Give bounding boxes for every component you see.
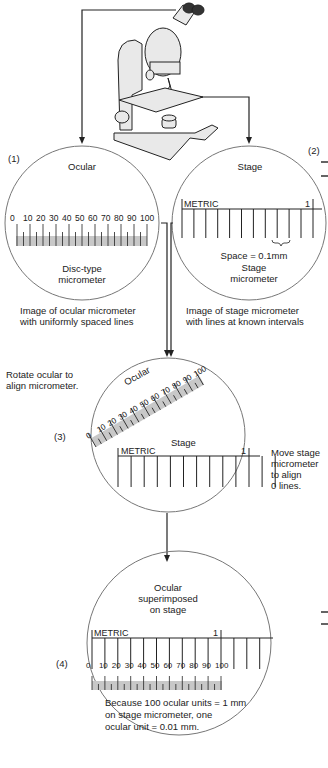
scale-label: 90 bbox=[127, 213, 136, 224]
scale-label: 10 bbox=[23, 213, 32, 224]
scale-label: 80 bbox=[189, 660, 198, 671]
scale-label: 10 bbox=[99, 660, 108, 671]
scale-label: 50 bbox=[75, 213, 84, 224]
panel-4-title-2: superimposed bbox=[128, 593, 208, 604]
panel-4-end-mark: 1 bbox=[213, 628, 218, 639]
scale-label: 20 bbox=[112, 660, 121, 671]
scale-label: 60 bbox=[163, 660, 172, 671]
stage-end-mark: 1 bbox=[305, 199, 310, 210]
panel-2-caption-2: with lines at known intervals bbox=[186, 316, 304, 327]
scale-label: 30 bbox=[125, 660, 134, 671]
move-note-4: 0 lines. bbox=[271, 480, 301, 491]
scale-label: 0 bbox=[10, 213, 15, 224]
space-note: Space = 0.1mm bbox=[214, 250, 294, 261]
panel-4-title-1: Ocular bbox=[128, 582, 208, 593]
panel-4-metric-label: METRIC bbox=[94, 628, 129, 639]
panel-2-subtitle-2: micrometer bbox=[214, 273, 294, 284]
conclusion-3: ocular unit = 0.01 mm. bbox=[105, 721, 199, 732]
panel-4-number: (4) bbox=[56, 658, 68, 669]
microscope-icon bbox=[114, 3, 218, 160]
move-note-3: to align bbox=[271, 469, 302, 480]
conclusion-1: Because 100 ocular units = 1 mm bbox=[105, 697, 246, 708]
move-note-2: micrometer bbox=[271, 458, 319, 469]
panel-1-number: (1) bbox=[8, 153, 20, 164]
panel-2-caption-1: Image of stage micrometer bbox=[186, 305, 299, 316]
panel-1-subtitle-1: Disc-type bbox=[32, 263, 132, 274]
scale-label: 70 bbox=[101, 213, 110, 224]
panel-4-title-3: on stage bbox=[128, 604, 208, 615]
scale-label: 40 bbox=[62, 213, 71, 224]
stage-metric-label: METRIC bbox=[184, 199, 219, 210]
conclusion-2: on stage micrometer, one bbox=[105, 709, 212, 720]
scale-label: 0 bbox=[86, 660, 90, 671]
panel-1-subtitle-2: micrometer bbox=[32, 274, 132, 285]
scale-label: 90 bbox=[202, 660, 211, 671]
panel-1-caption-1: Image of ocular micrometer bbox=[20, 305, 136, 316]
panel-2-title: Stage bbox=[220, 161, 280, 172]
panel-1-title: Ocular bbox=[52, 161, 112, 172]
superimposed-scale-labels: 0102030405060708090100 bbox=[86, 660, 226, 672]
panel-2-number: (2) bbox=[308, 145, 320, 156]
rotate-note-1: Rotate ocular to bbox=[6, 369, 73, 380]
scale-label: 60 bbox=[88, 213, 97, 224]
scale-label: 40 bbox=[138, 660, 147, 671]
panel-2-subtitle-1: Stage bbox=[214, 262, 294, 273]
panel-3-end-mark: 1 bbox=[241, 446, 246, 457]
scale-label: 100 bbox=[140, 213, 154, 224]
panel-3-number: (3) bbox=[54, 431, 66, 442]
panel-3-stage-label: Stage bbox=[171, 437, 196, 448]
panel-3-metric-label: METRIC bbox=[121, 446, 156, 457]
move-note-1: Move stage bbox=[271, 447, 320, 458]
scale-label: 50 bbox=[151, 660, 160, 671]
scale-label: 30 bbox=[49, 213, 58, 224]
rotate-note-2: align micrometer. bbox=[6, 380, 78, 391]
ocular-scale-labels: 0102030405060708090100 bbox=[10, 213, 150, 225]
scale-label: 20 bbox=[36, 213, 45, 224]
scale-label: 70 bbox=[176, 660, 185, 671]
scale-label: 100 bbox=[215, 660, 228, 671]
panel-1-caption-2: with uniformly spaced lines bbox=[20, 316, 134, 327]
scale-label: 80 bbox=[114, 213, 123, 224]
